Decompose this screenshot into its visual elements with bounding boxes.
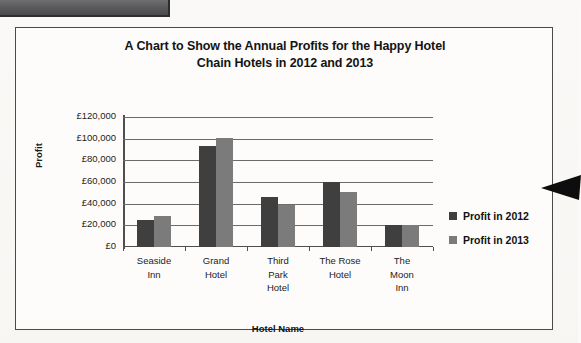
category-label-line: The Rose <box>309 254 371 268</box>
x-axis-category-label: ThirdParkHotel <box>247 254 309 295</box>
bar <box>261 197 278 247</box>
x-axis-tickmark <box>371 247 372 251</box>
annotation-arrow-icon <box>541 173 581 201</box>
category-label-line: Third <box>247 254 309 268</box>
chart-container: A Chart to Show the Annual Profits for t… <box>15 27 553 330</box>
y-axis-tick-label: £80,000 <box>54 153 116 164</box>
category-label-line: Hotel <box>185 268 247 282</box>
bar <box>278 205 295 247</box>
y-axis-title: Profit <box>33 143 44 168</box>
chart-legend: Profit in 2012Profit in 2013 <box>449 210 529 258</box>
bar-group <box>123 117 185 247</box>
x-axis-category-label: The RoseHotel <box>309 254 371 281</box>
bar <box>137 220 154 247</box>
legend-item[interactable]: Profit in 2013 <box>449 234 529 246</box>
legend-swatch-icon <box>449 212 457 220</box>
bar <box>199 146 216 247</box>
y-axis-tick-label: £0 <box>54 240 116 251</box>
top-dark-band <box>0 0 170 17</box>
category-label-line: Inn <box>371 281 433 295</box>
bar <box>402 225 419 247</box>
legend-label: Profit in 2013 <box>463 234 529 246</box>
chart-title: A Chart to Show the Annual Profits for t… <box>50 38 520 72</box>
x-axis-title: Hotel Name <box>123 323 433 334</box>
bar-group <box>371 117 433 247</box>
x-axis-category-label: SeasideInn <box>123 254 185 281</box>
bar <box>154 216 171 247</box>
x-axis-category-label: TheMoonInn <box>371 254 433 295</box>
x-axis-category-label: GrandHotel <box>185 254 247 281</box>
chart-title-line-2: Chain Hotels in 2012 and 2013 <box>50 55 520 72</box>
bar-group <box>247 117 309 247</box>
category-label-line: Grand <box>185 254 247 268</box>
y-axis-tick-label: £20,000 <box>54 218 116 229</box>
category-label-line: Seaside <box>123 254 185 268</box>
bar-group <box>185 117 247 247</box>
y-axis-tick-label: £40,000 <box>54 196 116 207</box>
plot-area <box>123 117 433 247</box>
chart-title-line-1: A Chart to Show the Annual Profits for t… <box>50 38 520 55</box>
bar <box>385 225 402 247</box>
x-axis-category-labels: SeasideInnGrandHotelThirdParkHotelThe Ro… <box>123 254 433 312</box>
legend-label: Profit in 2012 <box>463 210 529 222</box>
y-axis-tick-label: £100,000 <box>54 131 116 142</box>
bar <box>323 182 340 247</box>
y-axis-tick-label: £120,000 <box>54 110 116 121</box>
category-label-line: Inn <box>123 268 185 282</box>
x-axis-tickmark <box>185 247 186 251</box>
category-label-line: Moon <box>371 268 433 282</box>
category-label-line: Hotel <box>309 268 371 282</box>
y-axis-tick-label: £60,000 <box>54 175 116 186</box>
x-axis-tickmark <box>309 247 310 251</box>
bar-group <box>309 117 371 247</box>
category-label-line: Park <box>247 268 309 282</box>
legend-item[interactable]: Profit in 2012 <box>449 210 529 222</box>
x-axis-tickmark <box>123 247 124 251</box>
bar <box>216 138 233 247</box>
category-label-line: Hotel <box>247 281 309 295</box>
bar <box>340 192 357 247</box>
x-axis-tickmark <box>433 247 434 251</box>
x-axis-tickmark <box>247 247 248 251</box>
legend-swatch-icon <box>449 236 457 244</box>
category-label-line: The <box>371 254 433 268</box>
y-axis-tick-labels: £0£20,000£40,000£60,000£80,000£100,000£1… <box>54 113 116 247</box>
